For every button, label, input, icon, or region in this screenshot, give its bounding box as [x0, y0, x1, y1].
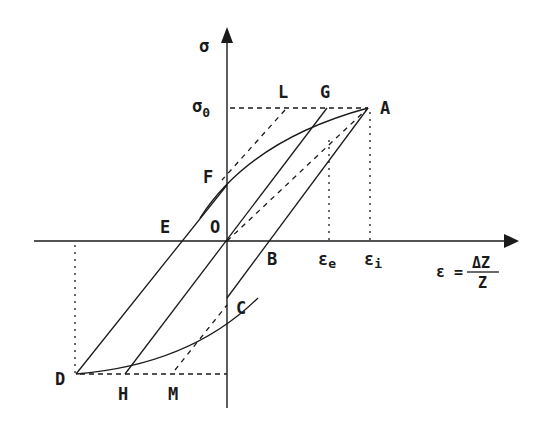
- point-label-e: E: [160, 217, 170, 237]
- y-axis-arrow-icon: [221, 27, 233, 43]
- lower-curve-d-c: [76, 298, 258, 374]
- upper-curve-f-a: [200, 108, 368, 218]
- point-label-d: D: [55, 369, 65, 389]
- point-label-a: A: [380, 98, 390, 118]
- m-dashed-line: [175, 305, 227, 370]
- x-axis-label-lhs: ε =: [436, 263, 463, 281]
- x-axis-label-denominator: Z: [478, 274, 487, 292]
- point-label-m: M: [168, 384, 178, 404]
- hysteresis-diagram: σ σ0 L G A F E O B C D H M εe εi ε = ΔZ …: [0, 0, 548, 430]
- oa-dashed-line: [227, 108, 368, 241]
- point-label-o: O: [210, 217, 220, 237]
- eps-i-tick-label: εi: [364, 249, 382, 271]
- point-label-h: H: [118, 384, 128, 404]
- eps-e-tick-label: εe: [318, 249, 336, 271]
- branch-f-e-d: [76, 185, 227, 374]
- x-axis-label-numerator: ΔZ: [472, 254, 490, 272]
- l-dashed-line: [222, 110, 285, 180]
- sigma0-label: σ0: [192, 96, 210, 120]
- point-label-c: C: [236, 298, 246, 318]
- branch-a-b-c: [227, 108, 368, 298]
- point-label-b: B: [267, 249, 277, 269]
- point-label-l: L: [278, 82, 288, 102]
- y-axis-label: σ: [199, 36, 209, 56]
- point-label-g: G: [320, 82, 330, 102]
- x-axis-arrow-icon: [504, 234, 519, 248]
- point-label-f: F: [203, 167, 213, 187]
